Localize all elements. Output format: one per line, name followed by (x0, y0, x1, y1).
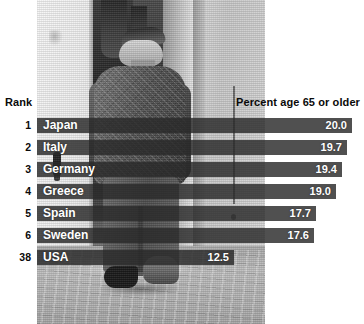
table-row: 5Spain17.7 (0, 206, 364, 221)
table-row: 38USA12.5 (0, 250, 364, 265)
value-label: 19.7 (313, 140, 342, 155)
rank-value: 4 (0, 184, 31, 199)
country-label: Sweden (43, 228, 88, 243)
table-row: 3Germany19.4 (0, 162, 364, 177)
country-label: Japan (43, 118, 78, 133)
value-label: 17.7 (282, 206, 311, 221)
rank-value: 2 (0, 140, 31, 155)
rank-value: 5 (0, 206, 31, 221)
value-label: 19.4 (308, 162, 337, 177)
value-label: 12.5 (200, 250, 229, 265)
country-label: Germany (43, 162, 95, 177)
rank-value: 6 (0, 228, 31, 243)
bar-chart-overlay: Rank Percent age 65 or older 1Japan20.02… (0, 0, 364, 324)
rank-column-header: Rank (5, 96, 32, 108)
table-row: 4Greece19.0 (0, 184, 364, 199)
value-label: 19.0 (302, 184, 331, 199)
table-row: 2Italy19.7 (0, 140, 364, 155)
country-label: USA (43, 250, 68, 265)
table-row: 1Japan20.0 (0, 118, 364, 133)
country-label: Italy (43, 140, 67, 155)
country-label: Greece (43, 184, 84, 199)
percent-column-header: Percent age 65 or older (236, 96, 360, 108)
country-label: Spain (43, 206, 76, 221)
bar-italy (37, 140, 347, 155)
chart-figure: Rank Percent age 65 or older 1Japan20.02… (0, 0, 364, 324)
bar-spain (37, 206, 316, 221)
rank-value: 3 (0, 162, 31, 177)
rank-value: 1 (0, 118, 31, 133)
value-label: 20.0 (318, 118, 347, 133)
value-label: 17.6 (280, 228, 309, 243)
bar-japan (37, 118, 352, 133)
rank-value: 38 (0, 250, 31, 265)
table-row: 6Sweden17.6 (0, 228, 364, 243)
